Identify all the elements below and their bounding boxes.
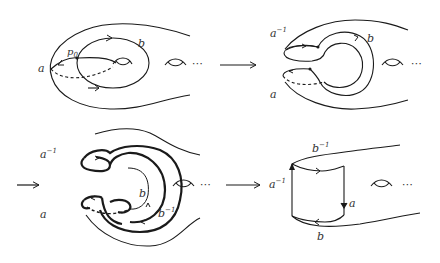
handle-hole [382, 59, 403, 66]
annulus-inner [324, 43, 363, 87]
panel-4 [292, 145, 420, 226]
handle-hole [371, 180, 392, 187]
label-a: a [38, 62, 45, 75]
label-a: a [349, 197, 356, 210]
label-p0: p0 [67, 46, 78, 59]
surface-outline-bottom [86, 215, 200, 246]
ellipsis: ⋯ [192, 57, 203, 70]
label-a-inverse: a−1 [270, 26, 287, 40]
ellipsis: ⋯ [200, 178, 211, 191]
boundary-top-lobe [84, 146, 182, 232]
surface-outline-bottom [292, 213, 420, 226]
label-a-inverse: a−1 [40, 147, 57, 161]
curve-a-front [51, 58, 116, 69]
label-b: b [139, 187, 146, 200]
annulus-outer [318, 32, 374, 95]
ellipsis: ⋯ [402, 178, 413, 191]
ellipsis: ⋯ [411, 57, 422, 70]
label-b-inverse: b−1 [312, 141, 329, 155]
label-b: b [367, 32, 374, 45]
surface-outline [50, 24, 190, 109]
label-a: a [270, 88, 277, 101]
panel-2 [283, 20, 408, 109]
label-b: b [138, 37, 145, 50]
panel-1 [50, 24, 190, 109]
handle-hole-1 [113, 58, 132, 65]
handle-hole [173, 180, 194, 187]
label-a-inverse: a−1 [269, 177, 286, 191]
handle-hole-2 [165, 59, 186, 66]
diagram-canvas: a b p0 ⋯ a−1 a b ⋯ [0, 0, 440, 263]
surface-outline-top [292, 145, 400, 164]
cut-disc-a [283, 69, 310, 76]
label-a: a [40, 208, 47, 221]
label-b: b [317, 230, 324, 243]
surface-cutting-diagram: a b p0 ⋯ a−1 a b ⋯ [0, 0, 440, 263]
surface-outline-top [95, 129, 200, 155]
